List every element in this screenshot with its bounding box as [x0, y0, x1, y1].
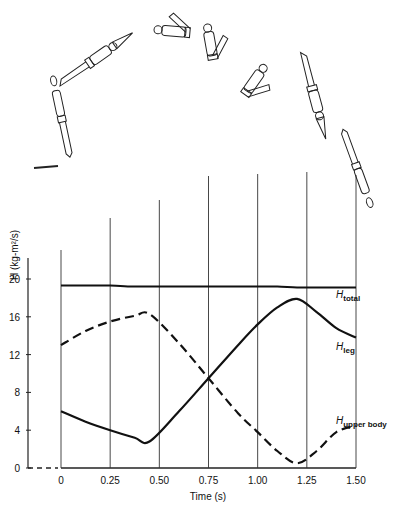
series-label: Hleg — [336, 341, 355, 355]
x-tick-label: 0.50 — [150, 475, 170, 486]
diver-figure — [241, 62, 280, 105]
series-label: Hupper body — [336, 415, 387, 429]
x-axis-label: Time (s) — [190, 491, 226, 502]
x-tick-label: 0.75 — [199, 475, 219, 486]
series-h-total — [61, 286, 356, 288]
diver-figure — [49, 75, 74, 158]
y-axis-label: H (kg-m²/s) — [9, 230, 20, 280]
y-tick-label: 0 — [14, 463, 20, 474]
x-tick-label: 1.00 — [248, 475, 268, 486]
diver-figure — [202, 21, 231, 60]
x-tick-label: 1.50 — [346, 475, 366, 486]
x-tick-label: 0 — [58, 475, 64, 486]
diver-figure — [298, 51, 331, 141]
y-tick-label: 4 — [14, 425, 20, 436]
x-tick-label: 0.25 — [100, 475, 120, 486]
y-tick-label: 12 — [9, 350, 21, 361]
y-tick-label: 8 — [14, 387, 20, 398]
diver-figure — [154, 12, 192, 38]
diver-sequence-illustration — [34, 12, 375, 209]
y-tick-label: 16 — [9, 312, 21, 323]
series-label: Htotal — [336, 289, 360, 303]
x-tick-label: 1.25 — [297, 475, 317, 486]
diver-figure — [339, 128, 375, 209]
chart: 04812162000.250.500.751.001.251.50Time (… — [0, 0, 406, 514]
diver-figure — [56, 29, 135, 89]
